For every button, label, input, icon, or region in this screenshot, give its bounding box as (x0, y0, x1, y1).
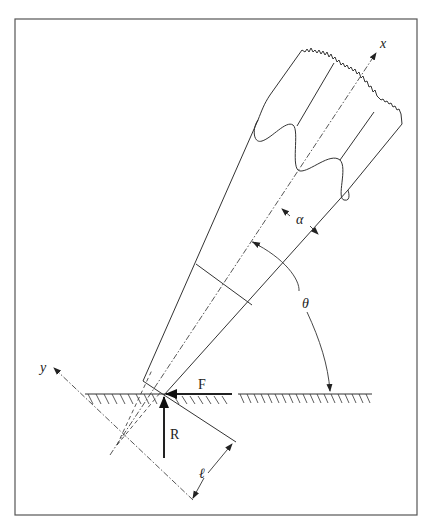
x-axis-label: x (379, 36, 387, 51)
reaction-force-R: R (164, 397, 180, 458)
contact-length-l: ℓ (193, 444, 232, 498)
tool-contact-diagram: x y F R α θ ℓ (0, 0, 433, 531)
ground-surface-right (238, 394, 372, 403)
x-axis: x (110, 36, 387, 455)
friction-force-F: F (166, 377, 232, 394)
theta-label: θ (302, 296, 309, 311)
force-F-label: F (198, 377, 206, 392)
angle-alpha: α (282, 209, 318, 234)
force-R-label: R (170, 427, 180, 442)
angle-theta: θ (252, 242, 330, 391)
figure-frame (15, 19, 417, 515)
tool-body (143, 48, 402, 442)
alpha-label: α (296, 212, 304, 227)
length-label: ℓ (199, 466, 205, 481)
y-axis-label: y (38, 360, 47, 375)
